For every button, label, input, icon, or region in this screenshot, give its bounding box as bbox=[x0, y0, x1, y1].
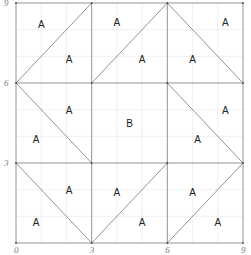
y-tick-label: 6 bbox=[4, 78, 9, 88]
diagonal-line bbox=[167, 163, 243, 243]
region-label: A bbox=[189, 187, 196, 198]
x-tick-label: 9 bbox=[241, 245, 246, 255]
vertex-dot bbox=[166, 162, 168, 164]
diagonal-line bbox=[167, 3, 243, 83]
region-label: A bbox=[114, 187, 121, 198]
region-label: A bbox=[66, 105, 73, 116]
vertex-dot bbox=[15, 242, 17, 244]
tiling-diagram: AAAAAAAABAAAAAAAA0369369 bbox=[0, 0, 251, 255]
diagonal-line bbox=[92, 163, 168, 243]
region-label: A bbox=[33, 134, 40, 145]
region-label: A bbox=[139, 54, 146, 65]
x-tick-label: 3 bbox=[89, 245, 95, 255]
vertex-dot bbox=[91, 162, 93, 164]
diagonal-line bbox=[167, 83, 243, 163]
vertex-dot bbox=[242, 2, 244, 4]
x-tick-label: 0 bbox=[14, 245, 19, 255]
region-label: A bbox=[66, 185, 73, 196]
diagonal-line bbox=[16, 83, 92, 163]
region-label: A bbox=[114, 17, 121, 28]
vertex-dot bbox=[15, 82, 17, 84]
region-label: A bbox=[222, 17, 229, 28]
y-tick-label: 3 bbox=[3, 158, 9, 168]
region-label: A bbox=[222, 105, 229, 116]
vertex-dot bbox=[166, 2, 168, 4]
region-label: A bbox=[33, 217, 40, 228]
diagonal-line bbox=[92, 3, 168, 83]
vertex-dot bbox=[242, 242, 244, 244]
vertex-dot bbox=[166, 242, 168, 244]
vertex-dot bbox=[242, 82, 244, 84]
region-label: A bbox=[194, 134, 201, 145]
vertex-dot bbox=[91, 242, 93, 244]
vertex-dot bbox=[166, 82, 168, 84]
vertex-dot bbox=[91, 82, 93, 84]
region-label: A bbox=[189, 54, 196, 65]
region-label: B bbox=[126, 118, 133, 129]
y-tick-label: 9 bbox=[4, 0, 9, 8]
diagonal-line bbox=[16, 3, 92, 83]
vertex-dot bbox=[15, 162, 17, 164]
region-label: A bbox=[38, 19, 45, 30]
vertex-dot bbox=[242, 162, 244, 164]
vertex-dot bbox=[15, 2, 17, 4]
region-label: A bbox=[139, 217, 146, 228]
diagonal-line bbox=[16, 163, 92, 243]
vertex-dot bbox=[91, 2, 93, 4]
region-label: A bbox=[66, 54, 73, 65]
region-label: A bbox=[214, 217, 221, 228]
x-tick-label: 6 bbox=[165, 245, 170, 255]
